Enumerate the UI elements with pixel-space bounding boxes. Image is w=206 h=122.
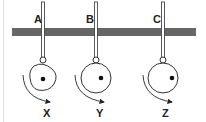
horizontal-bar xyxy=(12,28,196,36)
center-dot-x xyxy=(41,77,46,82)
pendulum-diagram: A B C X Y Z xyxy=(0,0,206,122)
label-c: C xyxy=(153,13,161,25)
center-dot-z xyxy=(170,76,175,81)
hook-b xyxy=(93,57,99,63)
label-b: B xyxy=(86,13,94,25)
label-y: Y xyxy=(96,107,104,119)
label-z: Z xyxy=(162,107,169,119)
rod-c xyxy=(162,2,165,58)
label-x: X xyxy=(43,107,51,119)
rod-b xyxy=(95,2,98,58)
object-y xyxy=(81,63,111,93)
hook-a xyxy=(40,57,46,63)
hook-c xyxy=(160,57,166,63)
rod-a xyxy=(42,2,45,58)
label-a: A xyxy=(34,13,42,25)
center-dot-y xyxy=(99,76,104,81)
